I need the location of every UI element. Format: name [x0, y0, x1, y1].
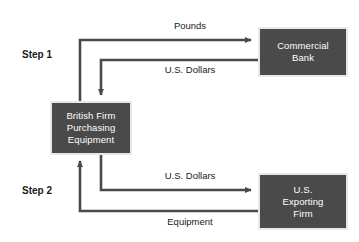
node-us-exporting-firm-line-3: Firm: [293, 208, 312, 220]
flow-diagram: Step 1 Step 2 British Firm Purchasing Eq…: [0, 0, 359, 242]
edge-label-equipment: Equipment: [140, 216, 240, 227]
node-british-firm-line-2: Purchasing: [67, 122, 116, 134]
node-us-exporting-firm-line-2: Exporting: [282, 196, 323, 208]
node-us-exporting-firm[interactable]: U.S. Exporting Firm: [258, 173, 348, 230]
node-commercial-bank-line-2: Bank: [292, 52, 314, 64]
edge-equipment-line: [80, 161, 258, 211]
step-label-2: Step 2: [22, 185, 52, 196]
node-commercial-bank[interactable]: Commercial Bank: [258, 27, 348, 77]
step-label-1: Step 1: [22, 49, 52, 60]
edge-label-dollars-to-exporter: U.S. Dollars: [140, 170, 240, 181]
node-british-firm-line-1: British Firm: [66, 110, 115, 122]
node-british-firm-line-3: Equipment: [68, 134, 114, 146]
edge-label-dollars-from-bank: U.S. Dollars: [140, 64, 240, 75]
node-commercial-bank-line-1: Commercial: [277, 40, 329, 52]
node-us-exporting-firm-line-1: U.S.: [294, 184, 313, 196]
node-british-firm[interactable]: British Firm Purchasing Equipment: [50, 101, 132, 155]
edge-label-pounds: Pounds: [145, 20, 235, 31]
